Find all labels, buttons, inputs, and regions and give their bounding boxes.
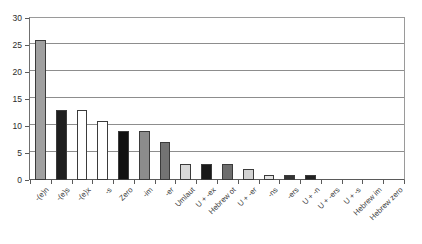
- x-axis-tick-label-text: -(e)x: [76, 186, 92, 202]
- bar: [201, 164, 212, 180]
- bar: [118, 131, 129, 180]
- x-axis-tick-label-text: -ers: [285, 186, 300, 201]
- y-axis-tick-label: 30: [0, 14, 22, 23]
- y-axis-tick-mark: [25, 180, 29, 181]
- x-axis-tick-label-text: -s: [103, 186, 113, 196]
- bars-layer: [30, 18, 404, 180]
- y-axis-tick-label: 10: [0, 122, 22, 131]
- bar-chart: 051015202530 -(e)n-(e)s-(e)x-sZero-im-er…: [0, 0, 422, 244]
- bar: [160, 142, 171, 180]
- bar: [35, 40, 46, 180]
- y-axis-tick-label: 20: [0, 68, 22, 77]
- bar: [139, 131, 150, 180]
- y-axis-tick-label: 0: [0, 176, 22, 185]
- bar: [243, 169, 254, 180]
- y-axis: 051015202530: [0, 17, 29, 181]
- x-axis-labels: -(e)n-(e)s-(e)x-sZero-im-erUmlautU + -ex…: [0, 184, 422, 244]
- x-axis-tick-label-text: -er: [163, 186, 175, 198]
- x-axis-tick-label-text: -(e)s: [55, 186, 71, 202]
- x-axis-tick-label-text: -im: [142, 186, 155, 199]
- x-axis-tick-label-text: Zero: [117, 186, 133, 202]
- bar: [97, 121, 108, 180]
- y-axis-tick-label: 5: [0, 149, 22, 158]
- bar: [180, 164, 191, 180]
- y-axis-tick-label: 15: [0, 95, 22, 104]
- x-axis-tick-label-text: -(e)n: [34, 186, 51, 203]
- y-axis-tick-label: 25: [0, 41, 22, 50]
- x-axis-tick-label-text: -ns: [266, 186, 279, 199]
- bar: [222, 164, 233, 180]
- bar: [77, 110, 88, 180]
- bar: [56, 110, 67, 180]
